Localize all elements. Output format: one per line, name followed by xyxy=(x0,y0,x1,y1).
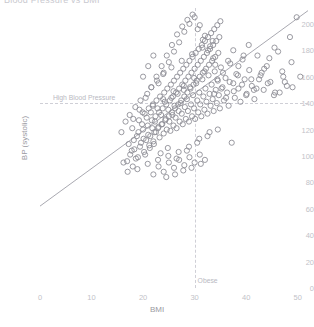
data-point xyxy=(294,15,299,20)
data-point xyxy=(220,70,225,75)
data-point xyxy=(229,140,234,145)
data-point xyxy=(156,164,161,169)
data-point xyxy=(235,73,240,78)
data-point xyxy=(123,119,128,124)
x-tick-label: 50 xyxy=(294,293,302,302)
chart-figure: Blood Pressure vs BMI BP (systolic) BMI … xyxy=(0,0,314,327)
data-point xyxy=(192,106,197,111)
data-point xyxy=(192,160,197,165)
data-point xyxy=(242,77,247,82)
x-tick-label: 10 xyxy=(87,293,95,302)
data-point xyxy=(171,49,176,54)
data-point xyxy=(290,85,295,90)
data-point xyxy=(239,82,244,87)
data-point xyxy=(166,153,171,158)
data-point xyxy=(145,123,150,128)
y-axis-label: BP (systolic) xyxy=(20,116,29,160)
data-point xyxy=(125,169,130,174)
x-axis-label: BMI xyxy=(0,305,314,314)
data-point xyxy=(136,118,141,123)
data-point xyxy=(126,141,131,146)
data-point xyxy=(177,40,182,45)
data-point xyxy=(209,82,214,87)
data-point xyxy=(226,103,231,108)
data-point xyxy=(232,95,237,100)
data-point xyxy=(199,114,204,119)
data-point xyxy=(138,98,143,103)
data-point xyxy=(151,172,156,177)
data-point xyxy=(252,97,257,102)
data-point xyxy=(298,74,303,79)
data-point xyxy=(182,29,187,34)
data-point xyxy=(217,106,222,111)
data-point xyxy=(176,149,181,154)
data-point xyxy=(130,126,135,131)
data-point xyxy=(131,116,136,121)
data-point xyxy=(180,24,185,29)
data-point xyxy=(289,60,294,65)
data-point xyxy=(210,97,215,102)
data-point xyxy=(119,130,124,135)
data-point xyxy=(166,160,171,165)
data-point xyxy=(280,69,285,74)
data-point xyxy=(166,107,171,112)
data-point xyxy=(231,48,236,53)
data-point xyxy=(198,161,203,166)
data-point xyxy=(155,157,160,162)
data-point xyxy=(272,45,277,50)
data-point xyxy=(187,155,192,160)
data-point xyxy=(158,151,163,156)
data-point xyxy=(255,53,260,58)
data-point xyxy=(198,102,203,107)
data-point xyxy=(169,42,174,47)
x-tick-label: 20 xyxy=(139,293,147,302)
data-point xyxy=(185,108,190,113)
data-point xyxy=(287,34,292,39)
data-point xyxy=(247,67,252,72)
data-point xyxy=(203,86,208,91)
data-point xyxy=(236,64,241,69)
x-tick-label: 30 xyxy=(190,293,198,302)
data-point xyxy=(201,94,206,99)
data-point xyxy=(151,53,156,58)
data-point xyxy=(267,56,272,61)
data-point xyxy=(174,32,179,37)
data-point xyxy=(214,100,219,105)
data-point xyxy=(238,99,243,104)
data-point xyxy=(231,89,236,94)
data-point xyxy=(211,108,216,113)
data-point xyxy=(145,161,150,166)
data-point xyxy=(246,42,251,47)
scatter-points xyxy=(40,8,308,288)
data-point xyxy=(164,174,169,179)
data-point xyxy=(218,19,223,24)
data-point xyxy=(166,60,171,65)
data-point xyxy=(146,64,151,69)
data-point xyxy=(219,86,224,91)
data-point xyxy=(171,165,176,170)
plot-area: High Blood Pressure Obese xyxy=(40,8,308,288)
data-point xyxy=(189,165,194,170)
data-point xyxy=(161,169,166,174)
data-point xyxy=(169,65,174,70)
data-point xyxy=(208,103,213,108)
data-point xyxy=(179,58,184,63)
data-point xyxy=(165,145,170,150)
data-point xyxy=(216,50,221,55)
data-point xyxy=(190,93,195,98)
data-point xyxy=(249,77,254,82)
data-point xyxy=(172,172,177,177)
data-point xyxy=(234,71,239,76)
data-point xyxy=(152,119,157,124)
data-point xyxy=(140,127,145,132)
data-point xyxy=(181,168,186,173)
data-point xyxy=(281,74,286,79)
data-point xyxy=(217,34,222,39)
x-tick-label: 0 xyxy=(38,293,42,302)
data-point xyxy=(205,111,210,116)
data-point xyxy=(218,65,223,70)
data-point xyxy=(159,64,164,69)
data-point xyxy=(182,163,187,168)
data-point xyxy=(212,69,217,74)
data-point xyxy=(215,127,220,132)
